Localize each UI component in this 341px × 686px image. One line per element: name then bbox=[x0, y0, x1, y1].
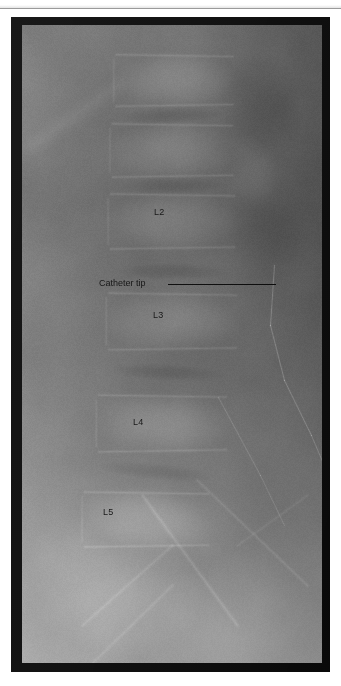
page-root: L2 L3 L4 L5 Catheter tip bbox=[0, 0, 341, 686]
radiograph-image: L2 L3 L4 L5 Catheter tip bbox=[22, 25, 322, 663]
page-top-rule bbox=[0, 8, 341, 9]
radiograph-frame: L2 L3 L4 L5 Catheter tip bbox=[11, 17, 330, 672]
radiograph-canvas bbox=[22, 25, 322, 663]
